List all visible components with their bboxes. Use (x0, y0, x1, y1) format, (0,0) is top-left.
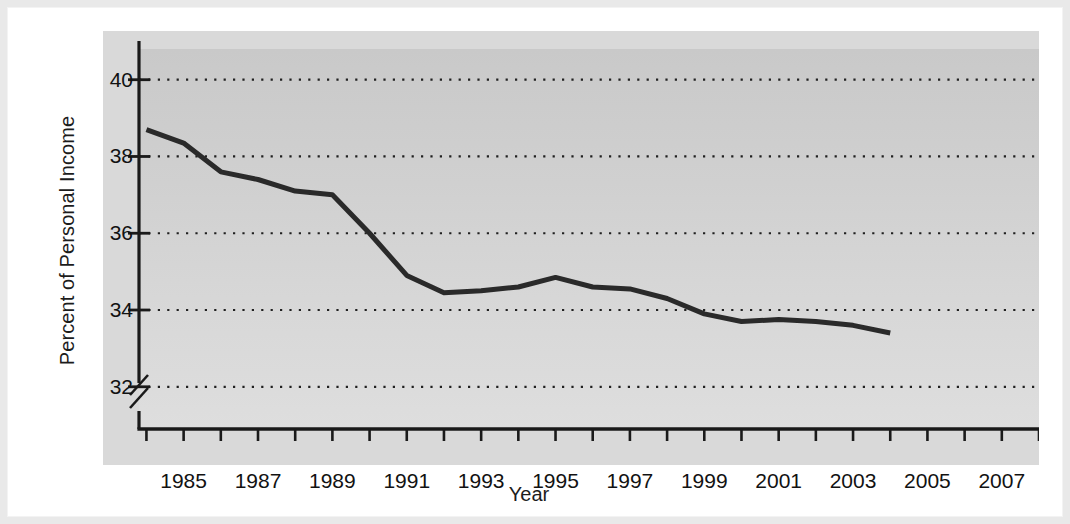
chart-area: 3234363840 19851987198919911993199519971… (41, 31, 1039, 465)
axes-group (137, 41, 1039, 429)
y-tick-label-38: 38 (89, 144, 133, 168)
y-tick-label-34: 34 (89, 298, 133, 322)
y-tick-label-36: 36 (89, 221, 133, 245)
gridlines-group (139, 80, 1039, 387)
line-chart-svg (41, 31, 1039, 465)
x-axis-ticks (146, 429, 1039, 441)
y-tick-label-40: 40 (89, 68, 133, 92)
series-line-percent-of-personal-income (146, 130, 890, 333)
figure-outer-frame: 3234363840 19851987198919911993199519971… (0, 0, 1070, 524)
y-tick-label-32: 32 (89, 375, 133, 399)
x-axis-title: Year (17, 483, 1041, 506)
data-series-line (146, 130, 890, 333)
y-axis-title: Percent of Personal Income (56, 31, 79, 451)
figure-inner-frame: 3234363840 19851987198919911993199519971… (8, 8, 1062, 516)
